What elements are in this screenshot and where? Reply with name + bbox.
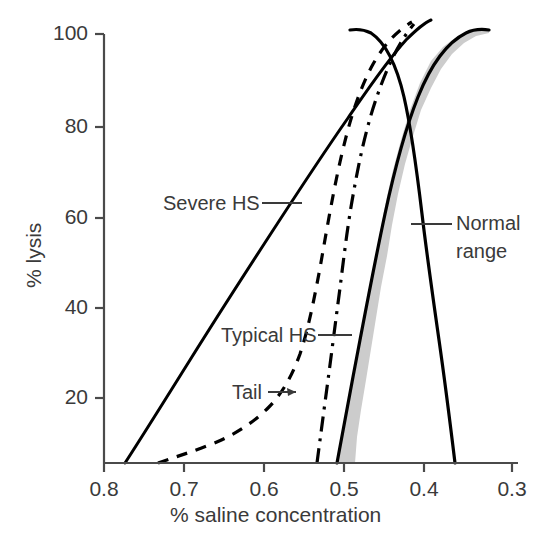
annotation-normal-range-line2: range [456, 240, 507, 263]
y-tick-label-40: 40 [28, 295, 88, 319]
x-tick-label-0-8: 0.8 [84, 477, 124, 501]
y-tick-label-100: 100 [28, 21, 88, 45]
x-tick-label-0-7: 0.7 [164, 477, 204, 501]
annotation-normal-range-line1: Normal [456, 212, 520, 235]
x-tick-label-0-3: 0.3 [492, 477, 532, 501]
x-tick-label-0-4: 0.4 [404, 477, 444, 501]
hemolysis-chart: 100 80 60 40 20 0.8 0.7 0.6 0.5 0.4 0.3 … [0, 0, 546, 537]
chart-plot-area [0, 0, 546, 537]
y-axis-title: % lysis [22, 223, 46, 288]
annotation-tail: Tail [232, 381, 262, 404]
x-tick-label-0-6: 0.6 [244, 477, 284, 501]
series-typical-hs [317, 24, 414, 463]
y-tick-label-80: 80 [28, 114, 88, 138]
series-tail [158, 22, 412, 463]
y-axis-ticks [95, 34, 104, 398]
x-tick-label-0-5: 0.5 [324, 477, 364, 501]
x-axis-title: % saline concentration [170, 503, 381, 527]
x-axis-ticks [104, 463, 512, 472]
y-tick-label-20: 20 [28, 385, 88, 409]
annotation-typical-hs: Typical HS [221, 324, 317, 347]
annotation-severe-hs: Severe HS [163, 192, 260, 215]
